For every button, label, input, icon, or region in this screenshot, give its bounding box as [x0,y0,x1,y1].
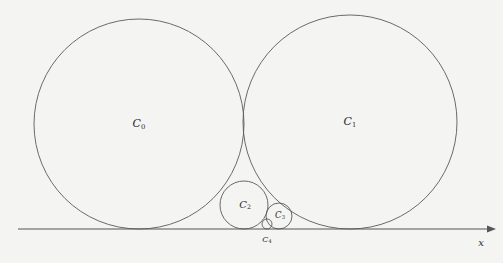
circle-c3 [266,203,292,229]
figure-container: C0 C1 C2 C3 C4 x [0,0,503,263]
circles-group [34,15,457,229]
circles-diagram-svg [0,0,503,263]
axis-group [18,225,496,232]
circle-c1 [243,15,457,229]
circle-c2 [220,181,268,229]
x-axis-arrowhead-icon [487,225,496,232]
circle-c0 [34,19,244,229]
